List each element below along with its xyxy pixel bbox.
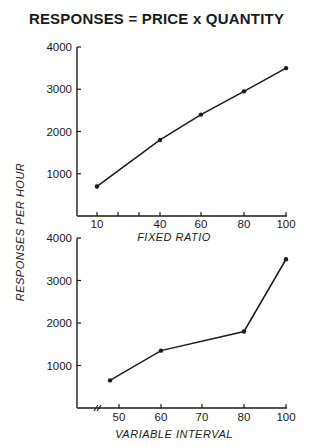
x-tick-label: 100 (276, 411, 295, 423)
x-tick-label: 80 (238, 218, 251, 230)
data-point (159, 348, 163, 352)
data-point (242, 89, 246, 93)
x-tick-label: 100 (276, 218, 295, 230)
y-tick-label: 2000 (46, 317, 72, 329)
data-point (199, 112, 203, 116)
x-axis-title: VARIABLE INTERVAL (115, 428, 233, 440)
x-tick-label: 40 (154, 218, 167, 230)
data-point (284, 66, 288, 70)
data-line (110, 259, 286, 380)
x-axis-title: FIXED RATIO (137, 231, 211, 243)
data-point (284, 257, 288, 261)
x-tick-label: 60 (155, 411, 168, 423)
y-tick-label: 4000 (46, 41, 72, 53)
data-point (108, 378, 112, 382)
y-tick-label: 2000 (46, 126, 72, 138)
data-point (242, 329, 246, 333)
chart-canvas: 100020003000400010406080100FIXED RATIO10… (0, 0, 313, 447)
y-tick-label: 3000 (46, 83, 72, 95)
y-axis-title: RESPONSES PER HOUR (14, 163, 26, 302)
y-tick-label: 1000 (46, 168, 72, 180)
x-tick-label: 70 (196, 411, 209, 423)
x-tick-label: 50 (113, 411, 126, 423)
data-point (158, 138, 162, 142)
data-point (95, 184, 99, 188)
x-tick-label: 60 (195, 218, 208, 230)
y-tick-label: 4000 (46, 232, 72, 244)
y-tick-label: 1000 (46, 360, 72, 372)
x-tick-label: 80 (238, 411, 251, 423)
x-tick-label: 10 (91, 218, 104, 230)
data-line (97, 68, 286, 186)
y-tick-label: 3000 (46, 275, 72, 287)
